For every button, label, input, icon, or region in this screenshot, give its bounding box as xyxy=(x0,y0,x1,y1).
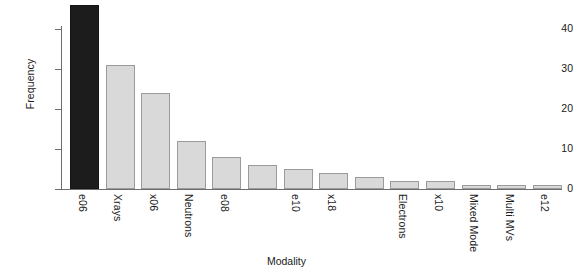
x-axis-title: Modality xyxy=(0,255,573,267)
bar xyxy=(70,5,99,189)
bar xyxy=(355,177,384,189)
x-tick-label: x18 xyxy=(326,194,338,211)
x-tick-label: e10 xyxy=(290,194,302,212)
y-tick-mark xyxy=(55,69,61,70)
x-tick-label: e06 xyxy=(77,194,89,212)
bar xyxy=(212,157,241,189)
y-tick-mark xyxy=(55,149,61,150)
y-tick-mark xyxy=(55,109,61,110)
x-tick-label: Neutrons xyxy=(183,194,195,237)
y-tick-mark xyxy=(55,189,61,190)
bar xyxy=(319,173,348,189)
y-axis-title: Frequency xyxy=(24,24,36,144)
bar xyxy=(462,185,491,189)
bar xyxy=(106,65,135,189)
x-tick-label: Mixed Mode xyxy=(468,194,480,252)
bar xyxy=(248,165,277,189)
bar xyxy=(497,185,526,189)
x-tick-label: e12 xyxy=(539,194,551,212)
x-tick-label: x06 xyxy=(148,194,160,211)
x-tick-label: Xrays xyxy=(112,194,124,221)
bar xyxy=(284,169,313,189)
x-tick-label: Multi MVs xyxy=(504,194,516,241)
bar xyxy=(533,185,562,189)
x-tick-label: e08 xyxy=(219,194,231,212)
bar xyxy=(426,181,455,189)
bar-chart: Frequency 010203040 e06Xraysx06Neutronse… xyxy=(0,0,573,279)
bar xyxy=(390,181,419,189)
x-tick-label: x10 xyxy=(433,194,445,211)
x-tick-label: Electrons xyxy=(397,194,409,239)
y-tick-mark xyxy=(55,29,61,30)
plot-area xyxy=(62,0,562,190)
bar xyxy=(177,141,206,189)
bar xyxy=(141,93,170,189)
